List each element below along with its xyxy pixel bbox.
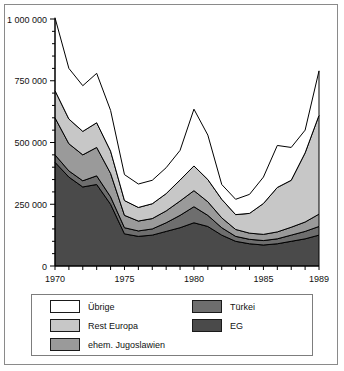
legend-label-turkei: Türkei	[230, 301, 255, 313]
x-tick-label: 1970	[45, 274, 65, 284]
y-tick-label: 750 000	[14, 76, 47, 86]
x-tick-label: 1989	[309, 274, 329, 284]
legend-label-rest-europa: Rest Europa	[88, 320, 138, 332]
y-tick-label: 250 000	[14, 200, 47, 210]
legend-label-ubrige: Übrige	[88, 301, 115, 313]
legend-label-ehem-jugoslawien: ehem. Jugoslawien	[88, 339, 165, 351]
legend-swatch-rest-europa	[50, 319, 80, 332]
y-tick-label: 0	[42, 262, 47, 272]
y-tick-label: 1 000 000	[7, 15, 47, 25]
legend-label-eg: EG	[230, 320, 243, 332]
chart-legend: Übrige Rest Europa ehem. Jugoslawien Tür…	[31, 294, 313, 356]
x-tick-label: 1980	[184, 274, 204, 284]
legend-swatch-ehem-jugoslawien	[50, 338, 80, 351]
chart-figure: 0250 000500 000750 0001 000 000197019751…	[4, 4, 338, 365]
x-tick-label: 1975	[114, 274, 134, 284]
y-tick-label: 500 000	[14, 138, 47, 148]
x-tick-label: 1985	[253, 274, 273, 284]
legend-swatch-turkei	[192, 300, 222, 313]
legend-swatch-eg	[192, 319, 222, 332]
legend-swatch-ubrige	[50, 300, 80, 313]
